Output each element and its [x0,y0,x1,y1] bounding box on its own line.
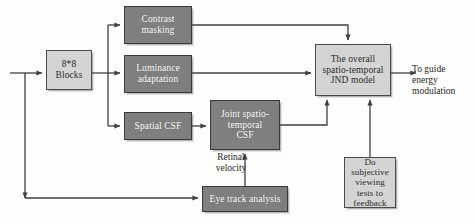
caption-to-guide-energy-modulation: To guide energy modulation [412,64,474,98]
node-contrast-masking: Contrast masking [124,6,192,44]
node-subjective-tests: Do subjective viewing tests to feedback [344,157,396,208]
node-joint-spatio-temporal-csf: Joint spatio- temporal CSF [210,100,280,150]
diagram-canvas: 8*8 BlocksContrast maskingLuminance adap… [0,0,475,224]
wire-contrast-masking-to-jnd [192,25,348,40]
node-overall-jnd-model: The overall spatio-temporal JND model [315,44,391,96]
caption-retinal-velocity: Retinal velocity [205,152,257,174]
node-spatial-csf: Spatial CSF [124,112,192,140]
wire-joint-csf-to-jnd [280,100,327,125]
node-luminance-adaptation: Luminance adaptation [124,55,192,93]
node-eye-track-analysis: Eye track analysis [202,186,288,212]
node-blocks: 8*8 Blocks [46,50,92,90]
